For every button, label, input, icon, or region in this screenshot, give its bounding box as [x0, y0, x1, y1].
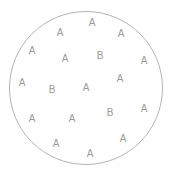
letter-item: B — [107, 108, 114, 118]
letter-item: A — [87, 149, 94, 159]
letter-item: A — [89, 18, 96, 28]
letter-item: A — [117, 74, 124, 84]
letter-item: A — [141, 56, 148, 66]
letter-item: A — [29, 46, 36, 56]
letter-item: B — [97, 51, 104, 61]
letter-item: B — [49, 85, 56, 95]
letter-item: A — [29, 114, 36, 124]
letter-item: A — [53, 139, 60, 149]
letter-item: A — [141, 104, 148, 114]
letter-item: A — [120, 134, 127, 144]
letter-item: A — [62, 54, 69, 64]
letter-item: A — [69, 114, 76, 124]
letter-item: A — [19, 78, 26, 88]
letter-item: A — [57, 28, 64, 38]
diagram-canvas: A A A A A B A A B A A B A A A A A A — [0, 0, 171, 174]
letter-item: A — [83, 83, 90, 93]
letter-item: A — [118, 29, 125, 39]
